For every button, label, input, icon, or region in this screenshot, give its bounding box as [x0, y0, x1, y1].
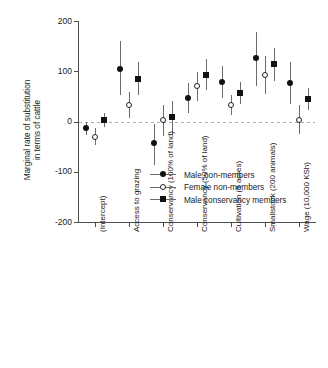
data-point	[219, 79, 225, 85]
x-axis-tick-mark	[129, 223, 130, 227]
data-point	[296, 117, 302, 123]
data-point	[287, 80, 293, 86]
x-axis-tick-label: Smallstock (200 animals)	[269, 143, 277, 232]
data-point	[101, 117, 107, 123]
legend-label: Male non-members	[184, 170, 255, 183]
data-point	[185, 95, 191, 101]
chart-figure: Marginal rate of substitution in terms o…	[0, 0, 328, 368]
data-point	[169, 114, 175, 120]
y-axis-title-line-1: Marginal rate of substitution	[23, 45, 33, 215]
x-axis-tick-mark	[231, 223, 232, 227]
x-axis-tick-mark	[95, 223, 96, 227]
y-axis-title-line-2: in terms of cattle	[33, 45, 43, 215]
y-axis-title: Marginal rate of substitution in terms o…	[23, 45, 43, 215]
y-axis-tick-label: -100	[55, 167, 72, 176]
data-point	[203, 72, 209, 78]
y-axis-tick-label: -200	[55, 218, 72, 227]
x-axis-tick-mark	[197, 223, 198, 227]
legend-marker-filled-square-icon	[150, 193, 176, 206]
data-point	[92, 134, 98, 140]
x-axis-tick-mark	[265, 223, 266, 227]
legend-marker-open-circle-icon	[150, 181, 176, 194]
y-axis-tick-label: 0	[67, 117, 72, 126]
data-point	[237, 90, 243, 96]
x-axis-tick-label: (Intercept)	[99, 196, 107, 232]
data-point	[194, 83, 200, 89]
y-axis-tick-label: 100	[58, 67, 72, 76]
data-point	[228, 102, 234, 108]
data-point	[83, 125, 89, 131]
data-point	[135, 76, 141, 82]
zero-reference-line	[79, 122, 315, 123]
data-point	[253, 55, 259, 61]
data-point	[262, 72, 268, 78]
x-axis-tick-label: Access to grazing	[133, 169, 141, 232]
x-axis-tick-mark	[299, 223, 300, 227]
data-point	[126, 102, 132, 108]
data-point	[151, 140, 157, 146]
x-axis-tick-mark	[163, 223, 164, 227]
data-point	[305, 96, 311, 102]
legend-marker-filled-circle-icon	[150, 168, 176, 181]
legend-label: Female non-members	[184, 182, 264, 195]
y-axis-tick-label: 200	[58, 17, 72, 26]
legend-label: Male conservancy members	[184, 195, 286, 208]
data-point	[117, 66, 123, 72]
data-point	[271, 61, 277, 67]
x-axis-tick-label: Wage (10,000 KSh)	[303, 162, 311, 232]
